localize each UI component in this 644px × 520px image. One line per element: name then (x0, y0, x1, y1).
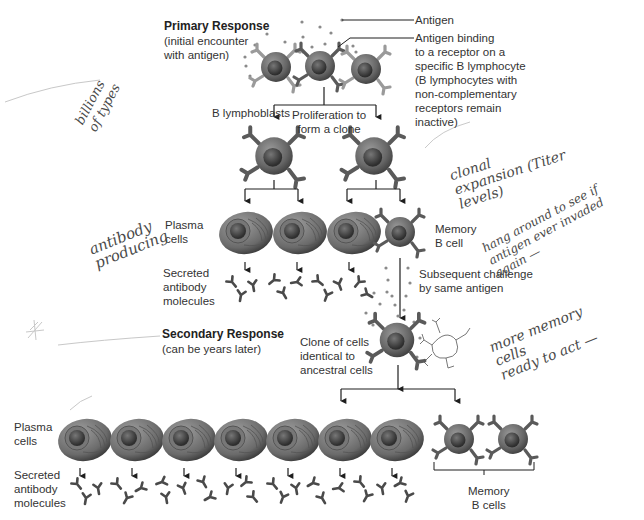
b-lymphoblasts-label: B lymphoblasts (212, 106, 290, 120)
plasma-cell (211, 415, 270, 464)
antibody-molecules-secondary (71, 476, 413, 505)
plasma-cells-label-secondary: Plasma cells (14, 420, 52, 448)
memory-b-cell (487, 416, 537, 464)
antibody-molecules-primary (226, 274, 374, 302)
plasma-cells-label-primary: Plasma cells (165, 218, 203, 246)
antigen-label: Antigen (415, 13, 454, 27)
immune-response-diagram: Primary Response (initial encounter with… (0, 0, 644, 520)
antigen-binding-label: Antigen binding to a receptor on a speci… (415, 31, 526, 129)
secondary-response-subheading: (can be years later) (162, 342, 261, 356)
b-lymphocyte-inactive-2 (340, 46, 390, 94)
plasma-cell (107, 415, 166, 464)
proliferation-label: Proliferation to form a clone (292, 108, 366, 136)
b-lymphoblast-1 (242, 127, 305, 187)
secondary-response-heading: Secondary Response (162, 327, 284, 341)
plasma-cell (270, 208, 329, 257)
plasma-cell (367, 415, 426, 464)
plasma-cell (324, 208, 383, 257)
b-lymphocyte-inactive-1 (250, 44, 300, 92)
plasma-cell (216, 208, 275, 257)
primary-response-subheading: (initial encounter with antigen) (164, 34, 248, 62)
memory-b-cell (374, 209, 424, 257)
primary-response-heading: Primary Response (164, 19, 269, 33)
plasma-cell (263, 415, 322, 464)
plasma-cell (55, 415, 114, 464)
b-lymphocyte-activated (294, 43, 344, 91)
secreted-antibody-label-primary: Secreted antibody molecules (163, 266, 215, 308)
memory-b-cell-label: Memory B cell (435, 222, 477, 250)
memory-cells-bracket (434, 462, 534, 475)
b-lymphoblast-2 (342, 127, 405, 187)
memory-b-cell (433, 416, 483, 464)
secreted-antibody-label-secondary: Secreted antibody molecules (14, 468, 66, 510)
handwritten-doodle (420, 318, 470, 368)
b-cell-secondary-activated (367, 314, 425, 369)
clone-identical-label: Clone of cells identical to ancestral ce… (300, 335, 373, 377)
plasma-cell (159, 415, 218, 464)
plasma-cell (315, 415, 374, 464)
memory-b-cells-label: Memory B cells (468, 484, 510, 512)
